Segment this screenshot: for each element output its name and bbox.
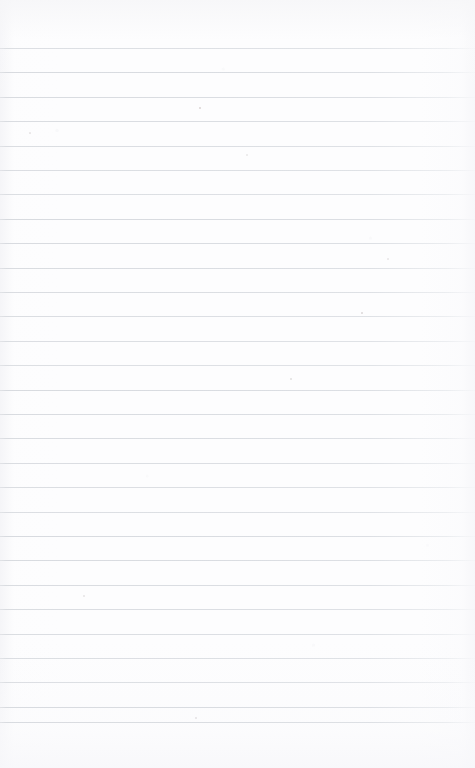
- rule-line: [0, 146, 475, 147]
- rule-line: [0, 682, 475, 683]
- rule-line: [0, 609, 475, 610]
- rule-line: [0, 194, 475, 195]
- rule-line: [0, 560, 475, 561]
- rule-line: [0, 316, 475, 317]
- rule-line: [0, 170, 475, 171]
- rule-line: [0, 722, 475, 723]
- rule-line: [0, 292, 475, 293]
- rule-line: [0, 72, 475, 73]
- rule-line: [0, 634, 475, 635]
- rule-line: [0, 487, 475, 488]
- rule-line: [0, 341, 475, 342]
- rule-line: [0, 48, 475, 49]
- rule-line: [0, 707, 475, 708]
- scanned-page: [0, 0, 475, 768]
- rule-line: [0, 365, 475, 366]
- rule-line: [0, 438, 475, 439]
- rule-line: [0, 658, 475, 659]
- rule-line: [0, 243, 475, 244]
- ruled-lines-group: [0, 0, 475, 768]
- rule-line: [0, 219, 475, 220]
- rule-line: [0, 463, 475, 464]
- rule-line: [0, 512, 475, 513]
- rule-line: [0, 390, 475, 391]
- rule-line: [0, 268, 475, 269]
- rule-line: [0, 536, 475, 537]
- rule-line: [0, 414, 475, 415]
- rule-line: [0, 97, 475, 98]
- rule-line: [0, 121, 475, 122]
- rule-line: [0, 585, 475, 586]
